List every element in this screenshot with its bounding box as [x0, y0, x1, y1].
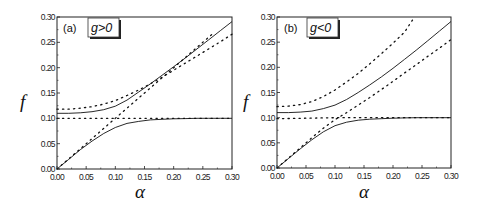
- dotted-curve: [277, 118, 451, 119]
- x-tick-label: 0.20: [167, 172, 182, 182]
- x-tick-label: 0.05: [79, 172, 94, 182]
- y-tick-label: 0.25: [261, 37, 276, 47]
- y-tick-label: 0.15: [261, 88, 276, 98]
- y-tick-label: 0.05: [41, 139, 56, 149]
- x-tick-label: 0.25: [196, 172, 211, 182]
- panel-label-a: (a): [63, 22, 76, 34]
- y-tick-label: 0.05: [261, 138, 276, 148]
- y-tick-label: 0.30: [261, 12, 276, 22]
- solid-curve: [277, 118, 451, 168]
- y-tick-label: 0.00: [41, 164, 56, 174]
- x-tick-label: 0.05: [299, 171, 314, 181]
- ticks-b: 0.000.050.100.150.200.250.300.000.050.10…: [261, 12, 459, 181]
- y-tick-label: 0.10: [261, 113, 276, 123]
- y-tick-label: 0.15: [41, 88, 56, 98]
- dotted-curve: [57, 34, 232, 109]
- legend-box-a: g>0: [88, 18, 121, 39]
- x-tick-label: 0.20: [386, 171, 401, 181]
- x-tick-label: 0.10: [108, 172, 123, 182]
- panel-a: 0.000.050.100.150.200.250.300.000.050.10…: [20, 12, 240, 202]
- solid-curve: [57, 118, 232, 169]
- x-tick-label: 0.10: [328, 171, 343, 181]
- y-tick-label: 0.20: [41, 63, 56, 73]
- panel-label-b: (b): [284, 22, 297, 34]
- x-tick-label: 0.25: [415, 171, 430, 181]
- y-axis-label-a: f: [20, 91, 28, 112]
- legend-text-b: g<0: [310, 21, 331, 35]
- x-tick-label: 0.30: [225, 172, 240, 182]
- solid-curve: [277, 22, 451, 113]
- x-tick-label: 0.30: [444, 171, 459, 181]
- legend-text-a: g>0: [91, 21, 112, 35]
- x-tick-label: 0.15: [357, 171, 372, 181]
- dotted-curve: [57, 35, 212, 169]
- y-tick-label: 0.10: [41, 113, 56, 123]
- solid-curve: [57, 22, 232, 114]
- y-axis-label-b: f: [243, 91, 251, 112]
- dotted-curve: [277, 40, 451, 168]
- x-axis-label-b: α: [359, 181, 370, 202]
- y-tick-label: 0.00: [261, 163, 276, 173]
- y-tick-label: 0.25: [41, 37, 56, 47]
- panel-b: 0.000.050.100.150.200.250.300.000.050.10…: [243, 12, 459, 202]
- curves-a: [57, 22, 232, 169]
- curves-b: [277, 17, 451, 168]
- y-tick-label: 0.30: [41, 12, 56, 22]
- x-axis-label-a: α: [135, 181, 146, 202]
- figure: 0.000.050.100.150.200.250.300.000.050.10…: [0, 0, 481, 208]
- legend-box-b: g<0: [307, 18, 340, 39]
- y-tick-label: 0.20: [261, 62, 276, 72]
- dotted-curve: [277, 17, 415, 107]
